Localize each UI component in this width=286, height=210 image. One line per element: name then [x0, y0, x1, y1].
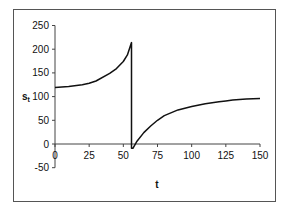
x-tick-label: 150 — [252, 150, 269, 161]
y-tick-label: 250 — [32, 20, 49, 31]
y-tick-label: 200 — [32, 44, 49, 55]
x-tick-label: 0 — [52, 150, 58, 161]
y-tick-label: 0 — [43, 139, 49, 150]
x-tick-label: 100 — [183, 150, 200, 161]
x-tick-label: 125 — [217, 150, 234, 161]
x-tick-label: 75 — [152, 150, 164, 161]
x-tick-label: 50 — [118, 150, 130, 161]
x-tick-label: 25 — [84, 150, 96, 161]
chart-frame — [14, 10, 276, 202]
y-tick-label: -50 — [35, 162, 50, 173]
y-tick-label: 100 — [32, 91, 49, 102]
chart: 250200150100500-50 0255075100125150 st t — [0, 0, 286, 210]
y-tick-label: 150 — [32, 67, 49, 78]
chart-svg: 250200150100500-50 0255075100125150 st t — [0, 0, 286, 210]
y-tick-label: 50 — [38, 115, 50, 126]
